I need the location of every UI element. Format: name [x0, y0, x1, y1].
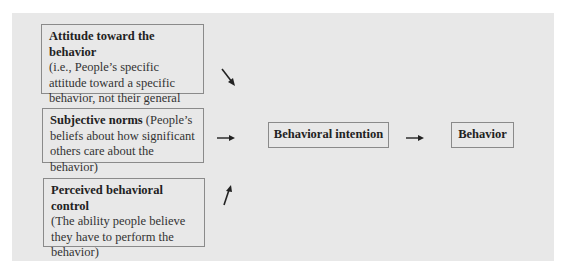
arrow-up-right-icon — [220, 183, 236, 207]
arrow-right-icon — [404, 132, 426, 144]
behavior-label: Behavior — [458, 127, 507, 143]
subjective-norms-title: Subjective norms — [50, 113, 143, 127]
attitude-box: Attitude toward the behavior (i.e., Peop… — [41, 24, 204, 94]
perceived-control-title: Perceived behavioral control — [51, 183, 163, 213]
behavior-box: Behavior — [451, 122, 514, 148]
behavioral-intention-label: Behavioral intention — [274, 127, 383, 143]
arrow-right-icon — [215, 132, 237, 144]
arrow-down-right-icon — [218, 65, 240, 89]
subjective-norms-box: Subjective norms (People’s beliefs about… — [42, 108, 204, 163]
attitude-title: Attitude toward the behavior — [49, 29, 155, 59]
behavioral-intention-box: Behavioral intention — [268, 122, 389, 148]
perceived-control-box: Perceived behavioral control (The abilit… — [43, 178, 205, 247]
